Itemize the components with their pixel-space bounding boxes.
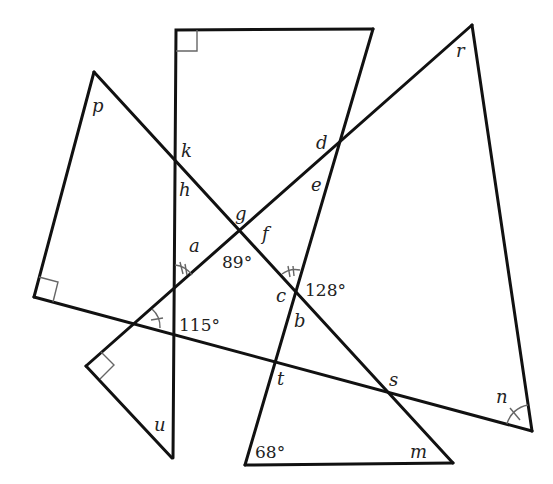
line-p-to-m [94,72,453,463]
label-u: u [154,414,166,435]
geometry-diagram: p k h g f d e a c b r t s u n m 89° 128°… [0,0,553,484]
label-r: r [456,40,466,61]
line-r-to-n [472,25,532,431]
angle-128: 128° [305,280,346,300]
tick-c-2 [293,266,294,276]
label-p: p [92,95,104,116]
label-g: g [235,203,247,224]
label-s: s [389,369,398,390]
label-a: a [189,235,200,256]
line-corner-to-u [86,366,172,458]
label-k: k [181,140,192,161]
label-t: t [277,368,285,389]
label-e: e [311,174,322,195]
line-r-to-corner [86,25,472,366]
label-m: m [410,441,427,462]
quadrilateral-left-top-edges [173,29,373,458]
quadrilateral-right-edge [245,29,373,465]
double-arc-mark-c [282,269,300,274]
label-h: h [179,179,191,200]
line-left-to-n [34,297,532,431]
arc-mark-n [507,405,528,424]
line-p-left-edge [34,72,94,297]
label-b: b [294,310,306,331]
label-n: n [496,386,508,407]
right-angle-mark-top [176,30,197,51]
label-c: c [276,285,286,306]
angle-89: 89° [222,252,252,272]
right-angle-mark-u [100,352,114,379]
angle-115: 115° [179,315,220,335]
angle-68: 68° [255,442,285,462]
tick-a-1 [180,262,183,274]
bottom-edge [245,463,453,465]
label-f: f [260,223,272,244]
tick-115 [151,318,163,320]
tick-a-2 [185,264,187,275]
label-d: d [316,132,328,153]
tick-c-1 [288,266,290,277]
